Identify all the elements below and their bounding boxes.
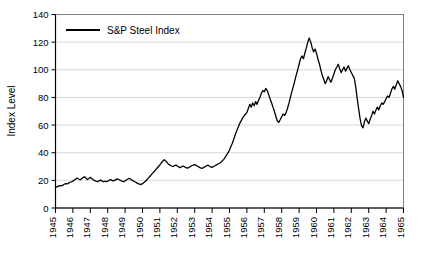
x-axis-tick-label: 1962 bbox=[342, 217, 353, 238]
x-axis-tick-label: 1949 bbox=[116, 217, 127, 238]
x-axis-tick-label: 1963 bbox=[360, 217, 371, 238]
x-axis-tick-label: 1956 bbox=[238, 217, 249, 238]
x-axis-tick-label: 1958 bbox=[273, 217, 284, 238]
x-axis-tick-label: 1965 bbox=[395, 217, 406, 238]
legend-label: S&P Steel Index bbox=[107, 25, 180, 36]
chart-container: 020406080100120140 194519461947194819491… bbox=[0, 0, 426, 254]
y-axis-tick-label: 60 bbox=[38, 120, 49, 131]
x-axis-tick-label: 1954 bbox=[203, 217, 214, 238]
y-axis-title: Index Level bbox=[6, 85, 17, 136]
x-axis-tick-label: 1952 bbox=[168, 217, 179, 238]
y-axis-tick-label: 80 bbox=[38, 92, 49, 103]
x-axis-tick-label: 1950 bbox=[134, 217, 145, 238]
x-axis-tick-label: 1951 bbox=[151, 217, 162, 238]
y-axis-tick-label: 100 bbox=[33, 64, 49, 75]
y-axis-tick-label: 20 bbox=[38, 175, 49, 186]
y-axis-tick-label: 140 bbox=[33, 9, 49, 20]
x-axis-tick-label: 1948 bbox=[99, 217, 110, 238]
x-axis-tick-label: 1959 bbox=[290, 217, 301, 238]
x-axis-tick-label: 1953 bbox=[186, 217, 197, 238]
y-axis-tick-label: 120 bbox=[33, 37, 49, 48]
x-axis-tick-label: 1947 bbox=[81, 217, 92, 238]
x-axis-tick-label: 1945 bbox=[47, 217, 58, 238]
x-axis-tick-label: 1957 bbox=[255, 217, 266, 238]
x-axis-tick-label: 1955 bbox=[221, 217, 232, 238]
x-axis-tick-label: 1960 bbox=[308, 217, 319, 238]
x-axis-tick-label: 1946 bbox=[64, 217, 75, 238]
x-axis-tick-label: 1961 bbox=[325, 217, 336, 238]
x-axis-tick-label: 1964 bbox=[377, 217, 388, 238]
y-axis-tick-label: 0 bbox=[43, 203, 48, 214]
sp-steel-index-line-chart: 020406080100120140 194519461947194819491… bbox=[0, 0, 426, 254]
y-axis-tick-label: 40 bbox=[38, 147, 49, 158]
